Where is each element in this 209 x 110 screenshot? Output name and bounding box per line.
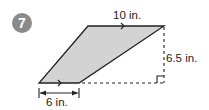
dimension-arrowhead-right-icon bbox=[72, 91, 78, 96]
top-side-label: 10 in. bbox=[113, 9, 141, 21]
bottom-side-label: 6 in. bbox=[46, 96, 68, 108]
right-angle-marker-icon bbox=[157, 76, 164, 83]
dimension-arrowhead-left-icon bbox=[40, 91, 46, 96]
parallelogram-shape bbox=[39, 26, 164, 83]
height-label: 6.5 in. bbox=[166, 52, 197, 64]
